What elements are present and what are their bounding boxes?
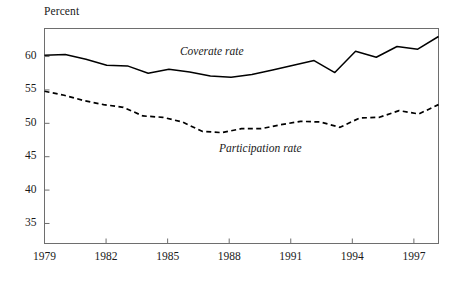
x-tick-label: 1988	[206, 250, 252, 262]
series-line-1	[45, 91, 439, 132]
x-tick-label: 1982	[83, 250, 129, 262]
y-tick-label: 40	[11, 183, 37, 195]
plot-frame	[45, 29, 439, 244]
x-tick-marks	[106, 239, 414, 244]
chart-figure: Percent 354045505560 1979198219851988199…	[0, 0, 457, 281]
y-tick-label: 35	[11, 216, 37, 228]
line-chart-plot-area	[0, 0, 457, 281]
y-tick-label: 60	[11, 49, 37, 61]
y-tick-marks	[45, 57, 50, 224]
y-tick-label: 50	[11, 116, 37, 128]
series-annotation-label: Participation rate	[219, 142, 302, 154]
x-tick-label: 1985	[145, 250, 191, 262]
series-line-0	[45, 37, 439, 78]
x-tick-label: 1991	[268, 250, 314, 262]
x-tick-label: 1997	[391, 250, 437, 262]
x-tick-label: 1979	[22, 250, 68, 262]
y-tick-label: 45	[11, 149, 37, 161]
x-tick-label: 1994	[329, 250, 375, 262]
y-tick-label: 55	[11, 82, 37, 94]
series-annotation-label: Coverate rate	[180, 45, 244, 57]
